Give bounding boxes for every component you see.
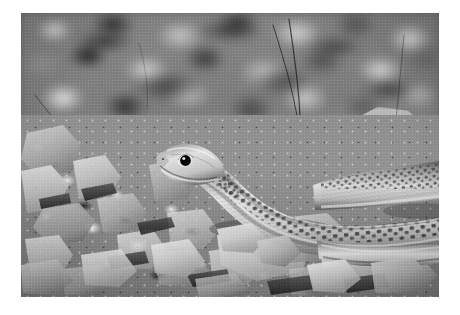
foreground-overlap-pebbles bbox=[21, 13, 439, 297]
photograph bbox=[21, 13, 439, 297]
page-root bbox=[0, 0, 460, 315]
